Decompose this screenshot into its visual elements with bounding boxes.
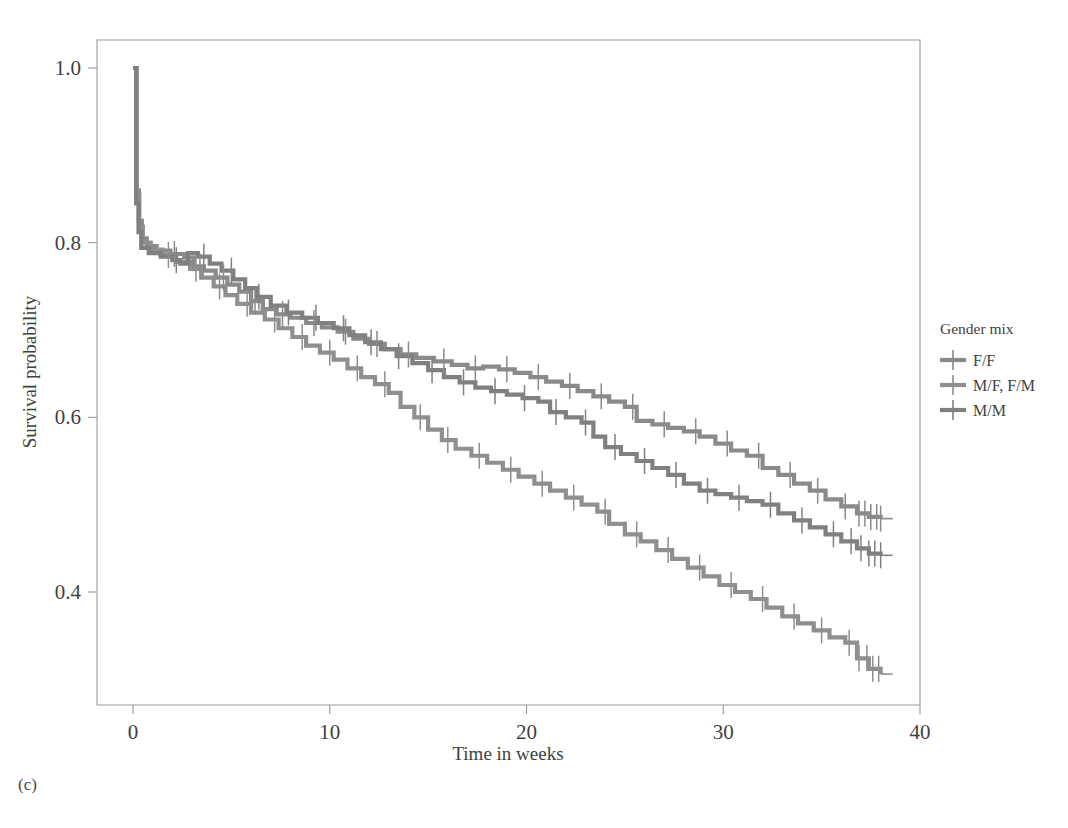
y-axis-label: Survival probability: [19, 295, 40, 448]
x-axis-label: Time in weeks: [452, 743, 563, 764]
y-tick-label: 1.0: [55, 56, 81, 80]
legend-title: Gender mix: [940, 320, 1014, 337]
x-tick-label: 20: [516, 720, 537, 744]
x-tick-label: 0: [128, 720, 139, 744]
x-tick-label: 30: [713, 720, 734, 744]
y-tick-label: 0.4: [55, 580, 82, 604]
legend-item-label: M/M: [973, 402, 1006, 419]
x-tick-label: 40: [910, 720, 931, 744]
panel-label: (c): [18, 775, 37, 794]
legend-item-label: M/F, F/M: [973, 377, 1035, 394]
legend-item-label: F/F: [973, 352, 995, 369]
figure-background: [0, 0, 1068, 828]
survival-plot-figure: 010203040 0.40.60.81.0 Gender mixF/FM/F,…: [0, 0, 1068, 828]
kaplan-meier-chart: 010203040 0.40.60.81.0 Gender mixF/FM/F,…: [0, 0, 1068, 828]
x-tick-label: 10: [319, 720, 340, 744]
y-tick-label: 0.6: [55, 405, 81, 429]
y-tick-label: 0.8: [55, 231, 81, 255]
